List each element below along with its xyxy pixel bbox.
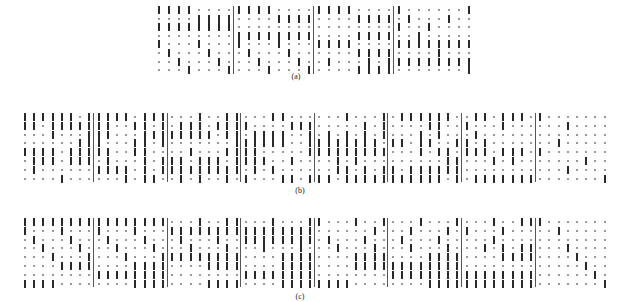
dot-mark <box>300 218 302 227</box>
dot-mark <box>217 148 219 157</box>
block-separator <box>535 218 536 287</box>
tick-mark <box>484 113 486 122</box>
tick-mark <box>226 175 228 184</box>
dot-mark <box>364 271 366 280</box>
dot-mark <box>604 131 606 140</box>
dot-mark <box>98 280 100 289</box>
dot-mark <box>337 131 339 140</box>
dot-mark <box>585 271 587 280</box>
dot-mark <box>493 148 495 157</box>
dot-mark <box>484 253 486 262</box>
dot-mark <box>558 280 560 289</box>
tick-mark <box>272 113 274 122</box>
tick-mark <box>328 236 330 245</box>
dot-mark <box>33 244 35 253</box>
tick-mark <box>429 166 431 175</box>
dot-mark <box>374 131 376 140</box>
tick-mark <box>226 148 228 157</box>
dot-mark <box>392 218 394 227</box>
dot-mark <box>107 139 109 148</box>
dot-mark <box>355 236 357 245</box>
tick-mark <box>604 280 606 289</box>
tick-mark <box>88 262 90 271</box>
dot-mark <box>153 122 155 131</box>
dot-mark <box>374 113 376 122</box>
dot-mark <box>493 166 495 175</box>
tick-mark <box>484 139 486 148</box>
dot-mark <box>116 122 118 131</box>
dot-mark <box>208 113 210 122</box>
tick-mark <box>475 113 477 122</box>
dot-mark <box>180 262 182 271</box>
tick-mark <box>282 280 284 289</box>
tick-mark <box>291 271 293 280</box>
dot-mark <box>576 148 578 157</box>
tick-mark <box>447 148 449 157</box>
dot-mark <box>348 66 350 75</box>
tick-mark <box>180 157 182 166</box>
tick-mark <box>300 244 302 253</box>
tick-mark <box>346 139 348 148</box>
dot-mark <box>466 131 468 140</box>
dot-mark <box>548 113 550 122</box>
dot-mark <box>392 148 394 157</box>
dot-mark <box>125 139 127 148</box>
dot-mark <box>567 131 569 140</box>
tick-mark <box>309 271 311 280</box>
tick-mark <box>217 157 219 166</box>
dot-mark <box>456 148 458 157</box>
dot-mark <box>585 122 587 131</box>
tick-mark <box>61 122 63 131</box>
dot-mark <box>502 139 504 148</box>
tick-mark <box>116 166 118 175</box>
dot-mark <box>392 113 394 122</box>
tick-mark <box>328 139 330 148</box>
tick-mark <box>309 280 311 289</box>
dot-mark <box>258 66 260 75</box>
dot-mark <box>88 271 90 280</box>
dot-mark <box>318 236 320 245</box>
dot-mark <box>116 227 118 236</box>
dot-mark <box>475 157 477 166</box>
tick-mark <box>401 262 403 271</box>
tick-mark <box>88 113 90 122</box>
tick-mark <box>594 271 596 280</box>
dot-mark <box>98 236 100 245</box>
tick-mark <box>70 148 72 157</box>
dot-mark <box>318 244 320 253</box>
dot-mark <box>383 236 385 245</box>
dot-mark <box>604 253 606 262</box>
tick-mark <box>447 262 449 271</box>
tick-mark <box>245 227 247 236</box>
dot-mark <box>52 244 54 253</box>
tick-mark <box>226 262 228 271</box>
tick-mark <box>153 113 155 122</box>
dot-mark <box>98 262 100 271</box>
dot-mark <box>254 280 256 289</box>
dot-mark <box>42 236 44 245</box>
dot-mark <box>245 280 247 289</box>
tick-mark <box>153 218 155 227</box>
dot-mark <box>594 227 596 236</box>
dot-mark <box>208 244 210 253</box>
tick-mark <box>180 175 182 184</box>
dot-mark <box>429 157 431 166</box>
dot-mark <box>162 227 164 236</box>
tick-mark <box>484 280 486 289</box>
tick-mark <box>116 271 118 280</box>
block-separator <box>240 113 241 182</box>
tick-mark <box>429 280 431 289</box>
dot-mark <box>263 148 265 157</box>
dot-mark <box>125 244 127 253</box>
dot-mark <box>493 139 495 148</box>
dot-mark <box>539 236 541 245</box>
dot-mark <box>190 157 192 166</box>
tick-mark <box>502 175 504 184</box>
tick-mark <box>521 253 523 262</box>
tick-mark <box>493 271 495 280</box>
tick-mark <box>153 280 155 289</box>
dot-mark <box>309 157 311 166</box>
dot-mark <box>548 131 550 140</box>
tick-mark <box>355 139 357 148</box>
dot-mark <box>567 236 569 245</box>
